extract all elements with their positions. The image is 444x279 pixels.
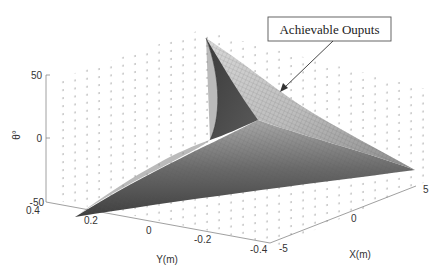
surface-3d-chart: 50 0 -50 θ° 0.4 0.2 0 -0.2 -0.4 Y(m) -5 … bbox=[0, 0, 444, 279]
z-tick-0: 0 bbox=[36, 133, 42, 144]
z-tick-50: 50 bbox=[31, 70, 43, 81]
annotation-text: Achievable Ouputs bbox=[279, 22, 379, 37]
y-tick-0: 0 bbox=[146, 225, 152, 236]
y-tick-0.4: 0.4 bbox=[26, 205, 40, 216]
z-axis: 50 0 -50 θ° bbox=[11, 70, 50, 208]
x-axis-label: X(m) bbox=[349, 249, 371, 260]
y-tick-0.2: 0.2 bbox=[84, 215, 98, 226]
y-tick-neg0.2: -0.2 bbox=[194, 234, 212, 245]
z-axis-label: θ° bbox=[11, 130, 22, 140]
y-axis-label: Y(m) bbox=[156, 254, 178, 265]
y-tick-neg0.4: -0.4 bbox=[250, 244, 268, 255]
x-tick-5: 5 bbox=[423, 184, 429, 195]
x-tick-0: 0 bbox=[351, 213, 357, 224]
x-tick-neg5: -5 bbox=[279, 243, 288, 254]
